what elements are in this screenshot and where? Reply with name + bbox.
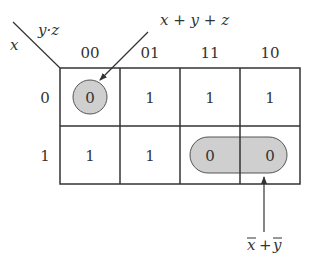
cell-r1-c3: 0 [265,147,275,165]
annotation-x-plus-y-plus-z: x + y + z [160,11,229,29]
col-header-10: 10 [260,44,279,62]
karnaugh-map-diagram: y·z x 00 01 11 10 0 1 0 1 1 1 1 1 0 0 x … [0,0,309,262]
cell-r0-c2: 1 [205,89,215,107]
row-header-0: 0 [40,89,50,107]
cell-r1-c0: 1 [85,147,95,165]
col-header-01: 01 [140,44,159,62]
cell-r0-c0: 0 [85,89,95,107]
cell-r0-c1: 1 [145,89,155,107]
col-variable-label: y·z [37,21,59,39]
svg-text:+: + [259,236,272,254]
cell-r1-c2: 0 [205,147,215,165]
svg-text:x: x [247,236,256,254]
cell-r0-c3: 1 [265,89,275,107]
svg-text:y: y [272,236,282,254]
row-variable-label: x [10,36,19,54]
col-header-11: 11 [200,44,219,62]
cell-r1-c1: 1 [145,147,155,165]
row-header-1: 1 [40,147,50,165]
annotation-xbar-plus-ybar: x + y [247,236,282,254]
col-header-00: 00 [80,44,99,62]
